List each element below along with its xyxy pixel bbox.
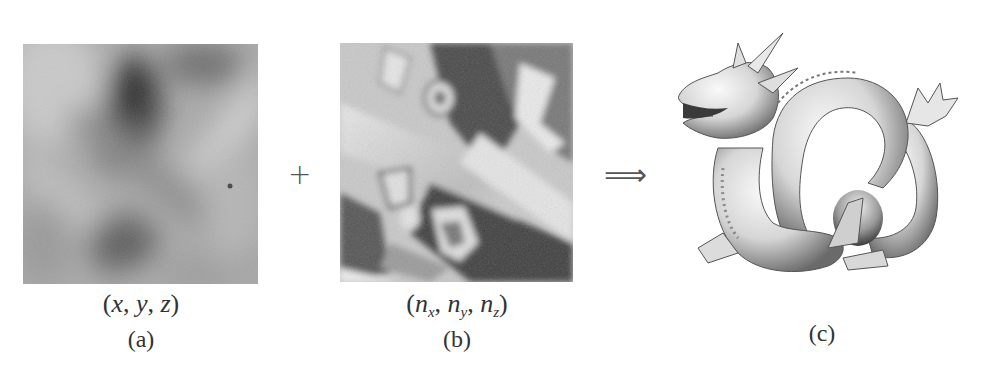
panel-c: (c) (660, 0, 986, 370)
caption-math-b: (nx, ny, nz) (357, 289, 557, 321)
dragon-model-render (678, 28, 968, 288)
caption-math-a: (x, y, z) (51, 289, 231, 319)
position-texture-image (23, 44, 258, 284)
panel-label-b: (b) (417, 326, 497, 353)
plus-operator: + (288, 158, 311, 191)
panel-b: (nx, ny, nz) (b) (320, 0, 600, 370)
normal-texture-image (340, 43, 573, 282)
implies-arrow: ⟹ (604, 160, 647, 190)
panel-label-c: (c) (782, 320, 862, 347)
panel-label-a: (a) (101, 326, 181, 353)
panel-a: (x, y, z) (a) (0, 0, 290, 370)
